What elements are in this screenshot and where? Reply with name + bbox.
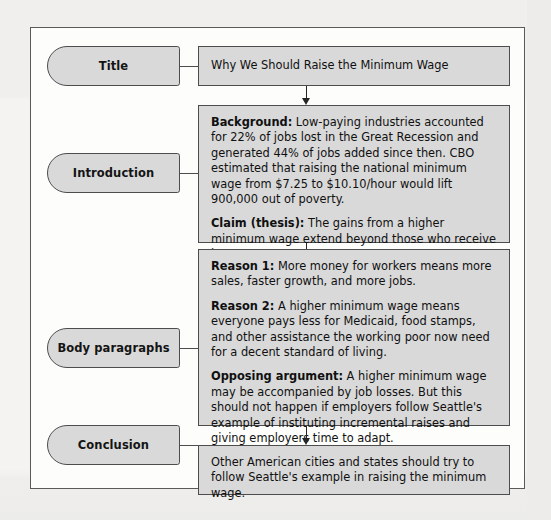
arrow-down-icon-title-to-introduction (302, 86, 311, 105)
content-block-introduction-0: Background: Low-paying industries accoun… (211, 115, 498, 207)
content-text-conclusion-0: Other American cities and states should … (211, 455, 486, 500)
content-block-title-0: Why We Should Raise the Minimum Wage (211, 58, 449, 73)
page-background-right-margin (527, 0, 551, 520)
content-lead-introduction-0: Background: (211, 115, 292, 129)
connector-conclusion (180, 445, 198, 446)
content-lead-body-2: Opposing argument: (211, 369, 343, 383)
stage-label-introduction-text: Introduction (73, 166, 155, 180)
stage-label-title[interactable]: Title (47, 46, 180, 86)
stage-label-conclusion-text: Conclusion (78, 438, 149, 452)
diagram-canvas: Title Why We Should Raise the Minimum Wa… (31, 28, 524, 488)
connector-body-paragraphs (180, 348, 198, 349)
content-block-conclusion-0: Other American cities and states should … (211, 455, 498, 501)
content-block-body-2: Opposing argument: A higher minimum wage… (211, 369, 498, 446)
content-lead-introduction-1: Claim (thesis): (211, 216, 304, 230)
content-block-body-0: Reason 1: More money for workers means m… (211, 259, 498, 290)
stage-label-introduction[interactable]: Introduction (47, 153, 180, 193)
content-text-title-0: Why We Should Raise the Minimum Wage (211, 58, 449, 72)
stage-label-body-paragraphs-text: Body paragraphs (57, 341, 169, 355)
content-box-title[interactable]: Why We Should Raise the Minimum Wage (198, 46, 510, 86)
content-lead-body-1: Reason 2: (211, 299, 274, 313)
connector-title (180, 66, 198, 67)
content-box-conclusion[interactable]: Other American cities and states should … (198, 445, 510, 495)
stage-label-body-paragraphs[interactable]: Body paragraphs (47, 328, 180, 368)
stage-label-conclusion[interactable]: Conclusion (47, 425, 180, 465)
content-box-body-paragraphs[interactable]: Reason 1: More money for workers means m… (198, 249, 510, 426)
content-lead-body-0: Reason 1: (211, 259, 274, 273)
arrow-down-icon-body-to-conclusion (302, 426, 311, 445)
diagram-frame: Title Why We Should Raise the Minimum Wa… (30, 27, 525, 489)
connector-introduction (180, 173, 198, 174)
content-block-body-1: Reason 2: A higher minimum wage means ev… (211, 299, 498, 361)
content-box-introduction[interactable]: Background: Low-paying industries accoun… (198, 105, 510, 243)
stage-label-title-text: Title (99, 59, 129, 73)
